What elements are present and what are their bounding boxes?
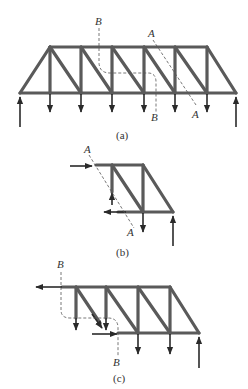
figure-a-loads xyxy=(20,94,236,127)
label-a-top-a: A xyxy=(147,27,155,39)
label-b-bottom-a: B xyxy=(151,111,158,123)
caption-c: (c) xyxy=(113,372,126,385)
caption-b: (b) xyxy=(116,246,129,259)
figure-b-truss xyxy=(96,165,173,212)
caption-a: (a) xyxy=(116,129,129,142)
label-b-top-c: B xyxy=(57,258,64,270)
figure-c-truss xyxy=(62,287,199,333)
figure-c-section-cut xyxy=(61,272,118,356)
label-b-bottom-c: B xyxy=(113,356,120,368)
label-b-top-a: B xyxy=(95,15,102,27)
truss-diagram: B B A A (a) A A (b) xyxy=(0,0,248,389)
label-a-bottom-b: A xyxy=(126,226,134,238)
figure-a-truss xyxy=(20,47,236,93)
label-a-bottom-a: A xyxy=(191,108,199,120)
label-a-top-b: A xyxy=(83,143,91,155)
